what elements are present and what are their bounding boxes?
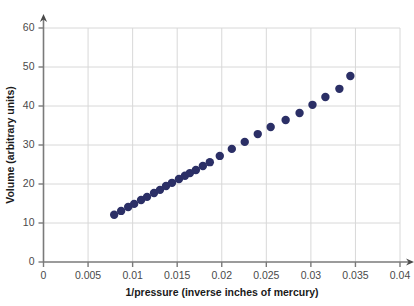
data-point	[335, 85, 343, 93]
y-tick-label: 20	[23, 177, 35, 189]
x-tick-label: 0.035	[342, 269, 368, 281]
data-point	[206, 158, 214, 166]
chart-canvas: 010203040506000.0050.010.0150.020.0250.0…	[0, 0, 414, 306]
x-tick-label: 0	[41, 269, 47, 281]
data-point	[254, 130, 262, 138]
data-point	[346, 72, 354, 80]
y-tick-label: 10	[23, 216, 35, 228]
x-axis-title: 1/pressure (inverse inches of mercury)	[125, 286, 318, 298]
data-point	[321, 93, 329, 101]
y-tick-label: 0	[29, 255, 35, 267]
x-tick-label: 0.015	[164, 269, 190, 281]
gridlines-group	[44, 28, 401, 262]
data-point	[117, 207, 125, 215]
data-point	[216, 152, 224, 160]
y-tick-label: 30	[23, 138, 35, 150]
data-point	[241, 138, 249, 146]
data-point	[266, 123, 274, 131]
tick-labels-group: 010203040506000.0050.010.0150.020.0250.0…	[23, 21, 411, 281]
data-point	[228, 145, 236, 153]
x-tick-label: 0.04	[390, 269, 411, 281]
x-tick-label: 0.005	[75, 269, 101, 281]
y-tick-label: 40	[23, 99, 35, 111]
data-point	[308, 101, 316, 109]
x-tick-label: 0.025	[253, 269, 279, 281]
data-point	[281, 116, 289, 124]
data-point	[295, 109, 303, 117]
x-tick-label: 0.03	[301, 269, 322, 281]
scatter-chart-figure: 010203040506000.0050.010.0150.020.0250.0…	[0, 0, 414, 306]
y-tick-label: 50	[23, 60, 35, 72]
y-tick-label: 60	[23, 21, 35, 33]
y-axis-title: Volume (arbitrary units)	[4, 86, 16, 204]
axes-group	[40, 14, 414, 266]
x-tick-label: 0.01	[122, 269, 143, 281]
tickmarks-group	[39, 28, 401, 267]
x-tick-label: 0.02	[212, 269, 233, 281]
